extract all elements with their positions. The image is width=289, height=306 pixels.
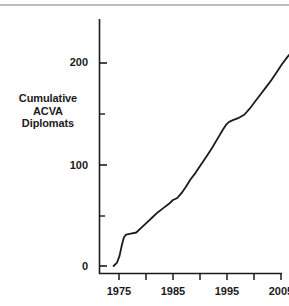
x-ticks	[119, 274, 281, 281]
chart-figure: Cumulative ACVA Diplomats 200 100 0 1975…	[0, 0, 289, 306]
chart-plot-area	[0, 0, 289, 306]
y-major-ticks	[100, 63, 108, 266]
data-line-cumulative-acva-diplomats	[114, 41, 289, 266]
